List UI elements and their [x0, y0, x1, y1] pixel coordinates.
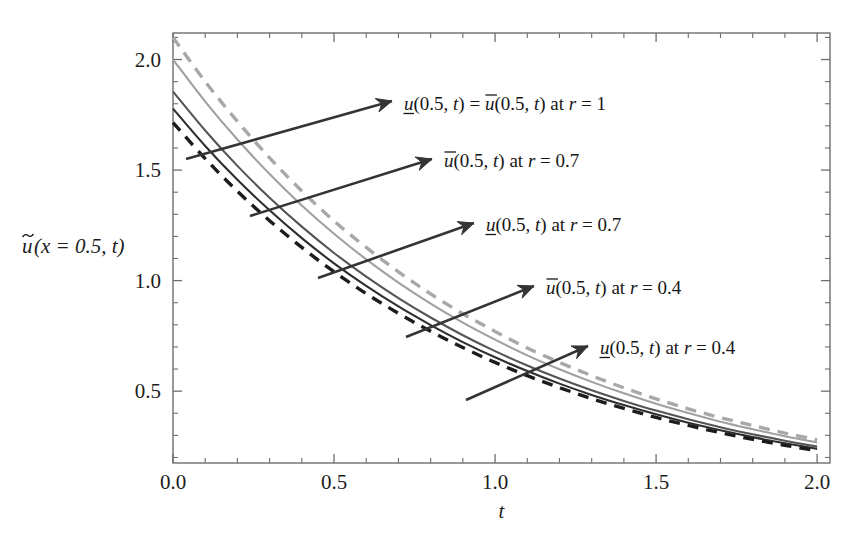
y-tick-label: 1.5 [135, 158, 161, 182]
y-tick-label: 1.0 [135, 269, 161, 293]
plot-area: 0.00.51.01.52.00.51.01.52.0tu(x = 0.5, t… [0, 0, 865, 547]
annotation-segment: = 0.7 [535, 150, 579, 171]
tick-labels: 0.00.51.01.52.00.51.01.52.0 [135, 48, 830, 494]
arrow-line [250, 159, 432, 216]
annotation-segment: ) at [539, 93, 569, 115]
annotation-segment: u [546, 277, 556, 298]
y-axis-title-rest: (x = 0.5, t) [34, 234, 125, 258]
y-axis-title-u: u [22, 234, 33, 258]
annotation-u-r04: u(0.5, t) at r = 0.4 [600, 337, 736, 359]
annotation-segment: u [404, 93, 414, 114]
curve-series-2 [173, 92, 817, 447]
annotation-segment: (0.5, [556, 277, 596, 299]
annotation-segment: (0.5, [454, 150, 494, 172]
x-tick-label: 1.5 [643, 470, 669, 494]
annotation-segment: ) = [458, 93, 485, 115]
x-tick-label: 0.5 [321, 470, 347, 494]
annotation-segment: = 1 [576, 93, 606, 114]
curve-series-4 [173, 123, 817, 451]
y-axis-title: u(x = 0.5, t) [22, 234, 125, 258]
annotation-r1: u(0.5, t) = u(0.5, t) at r = 1 [404, 93, 606, 115]
annotation-segment: (0.5, [610, 337, 650, 359]
figure-container: 0.00.51.01.52.00.51.01.52.0tu(x = 0.5, t… [0, 0, 865, 547]
annotation-segment: = 0.4 [691, 337, 735, 358]
annotation-segment: u [600, 337, 610, 358]
annotation-segment: ) at [600, 277, 630, 299]
x-tick-label: 0.0 [160, 470, 186, 494]
annotation-u-r07: u(0.5, t) at r = 0.7 [486, 214, 622, 236]
caption-band [0, 533, 865, 547]
curve-series-1 [173, 60, 817, 443]
annotation-segment: (0.5, [414, 93, 454, 115]
annotation-segment: u [485, 93, 495, 114]
annotation-segment: ) at [540, 214, 570, 236]
annotation-ubar-r07: u(0.5, t) at r = 0.7 [444, 150, 579, 172]
annotation-segment: (0.5, [496, 214, 536, 236]
annotation-segment: (0.5, [494, 93, 534, 115]
arrow-line [406, 286, 534, 337]
y-tick-label: 0.5 [135, 379, 161, 403]
annotation-segment: u [444, 150, 454, 171]
annotation-segment: u [486, 214, 496, 235]
annotation-segment: = 0.7 [577, 214, 621, 235]
x-axis-title: t [499, 499, 506, 523]
x-tick-label: 1.0 [482, 470, 508, 494]
annotation-segment: ) at [654, 337, 684, 359]
y-tick-label: 2.0 [135, 48, 161, 72]
annotation-segment: = 0.4 [637, 277, 681, 298]
arrow-line [186, 101, 392, 159]
annotation-ubar-r04: u(0.5, t) at r = 0.4 [546, 277, 682, 299]
x-tick-label: 2.0 [804, 470, 830, 494]
annotation-segment: ) at [498, 150, 528, 172]
